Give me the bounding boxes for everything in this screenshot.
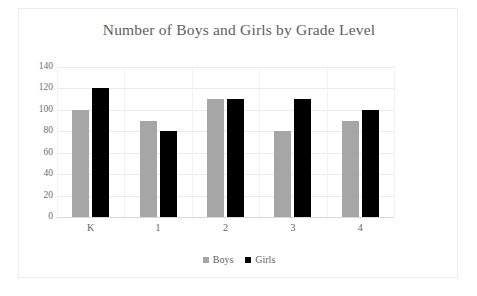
bar-boys-4 — [342, 121, 359, 217]
plot-wrapper: 020406080100120140 K1234 BoysGirls — [19, 9, 459, 279]
bar-girls-2 — [227, 99, 244, 217]
chart-legend: BoysGirls — [19, 255, 459, 265]
x-axis-tick-label: 1 — [124, 223, 191, 233]
plot-area — [57, 67, 394, 217]
y-axis-tick-labels: 020406080100120140 — [19, 67, 53, 217]
legend-swatch-icon — [203, 257, 209, 263]
bar-boys-1 — [140, 121, 157, 217]
bar-boys-3 — [274, 131, 291, 217]
gridline — [57, 67, 394, 68]
bar-boys-K — [72, 110, 89, 217]
x-axis-tick-label: K — [57, 223, 124, 233]
bar-girls-K — [92, 88, 109, 217]
legend-item-girls[interactable]: Girls — [245, 255, 275, 265]
bar-girls-4 — [362, 110, 379, 217]
x-axis-tick-label: 4 — [327, 223, 394, 233]
vertical-gridline — [192, 67, 193, 217]
bar-girls-1 — [160, 131, 177, 217]
x-axis-tick-label: 2 — [192, 223, 259, 233]
y-axis-tick-label: 40 — [19, 169, 53, 179]
gridline — [57, 217, 394, 218]
bar-girls-3 — [294, 99, 311, 217]
y-axis-tick-label: 100 — [19, 105, 53, 115]
bar-boys-2 — [207, 99, 224, 217]
legend-swatch-icon — [245, 257, 251, 263]
y-axis-tick-label: 20 — [19, 191, 53, 201]
vertical-gridline — [327, 67, 328, 217]
y-axis-tick-label: 140 — [19, 62, 53, 72]
vertical-gridline — [259, 67, 260, 217]
y-axis-tick-label: 80 — [19, 126, 53, 136]
legend-item-boys[interactable]: Boys — [203, 255, 234, 265]
legend-label: Girls — [255, 255, 275, 265]
legend-label: Boys — [213, 255, 234, 265]
chart-card: Number of Boys and Girls by Grade Level … — [18, 8, 458, 278]
y-axis-tick-label: 60 — [19, 148, 53, 158]
y-axis-tick-label: 120 — [19, 83, 53, 93]
vertical-gridline — [394, 67, 395, 217]
vertical-gridline — [124, 67, 125, 217]
x-axis-tick-label: 3 — [259, 223, 326, 233]
vertical-gridline — [57, 67, 58, 217]
y-axis-tick-label: 0 — [19, 212, 53, 222]
